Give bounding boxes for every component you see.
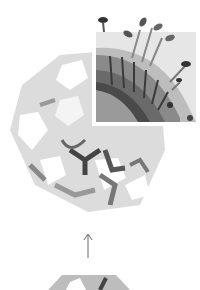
cutaway-inset [92, 16, 198, 126]
up-arrow-icon [84, 234, 92, 258]
illustration-figure [0, 0, 200, 290]
polyhedron-partial-bottom [48, 275, 130, 290]
